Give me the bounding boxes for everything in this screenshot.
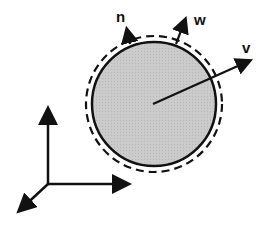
label-n: n (116, 8, 125, 25)
axis-down-left (20, 184, 48, 210)
vector-w: w (176, 11, 206, 44)
label-v: v (242, 39, 251, 56)
vector-n: n (116, 8, 130, 44)
label-w: w (193, 11, 206, 28)
diagram-canvas: n w v (0, 0, 270, 229)
